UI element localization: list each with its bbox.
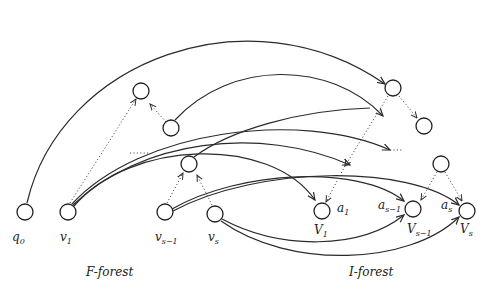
label-vs-1: vs−1 [155, 230, 178, 246]
node-i-top [385, 80, 401, 96]
caption-i-forest: I-forest [349, 265, 393, 279]
node-vs [207, 206, 223, 222]
label-q0: q0 [12, 230, 25, 246]
label-a1: a1 [337, 201, 349, 217]
arc-189-up [194, 108, 370, 157]
dot-i-mid [326, 166, 345, 202]
node-v1 [60, 204, 76, 220]
arc-v1-to-dot1 [72, 130, 390, 204]
label-V1: V1 [314, 223, 328, 239]
forest-diagram [0, 0, 491, 294]
node-Vs [459, 203, 475, 219]
dot-v1-up [70, 99, 136, 203]
dot-171-up [150, 104, 166, 122]
arc-vs-to-Vs1-low [222, 215, 404, 242]
node-f-mid [163, 120, 179, 136]
dot-i-top-right [399, 96, 417, 118]
label-v1: v1 [60, 230, 72, 246]
label-Vs: Vs [460, 222, 473, 238]
dot-vs1-up [167, 173, 183, 203]
node-f-top [133, 83, 149, 99]
node-Vs-1 [405, 201, 421, 217]
dot-vs-up [197, 175, 212, 205]
dot-i3-left [421, 172, 437, 200]
arc-vs1-to-Vs1 [172, 177, 404, 209]
arc-q0-to-top [27, 41, 385, 203]
arc-171-to-i2 [175, 74, 383, 120]
label-as-1: as−1 [378, 198, 401, 214]
node-i-low [433, 156, 449, 172]
label-Vs-1: Vs−1 [407, 222, 432, 238]
node-q0 [17, 204, 33, 220]
node-i-mid [416, 118, 432, 134]
label-as: as [441, 198, 452, 214]
label-vs: vs [208, 230, 219, 246]
node-V1 [314, 203, 330, 219]
dot-i-top-down [345, 96, 388, 166]
caption-f-forest: F-forest [86, 265, 133, 279]
node-vs-1 [157, 204, 173, 220]
node-f-low [181, 156, 197, 172]
